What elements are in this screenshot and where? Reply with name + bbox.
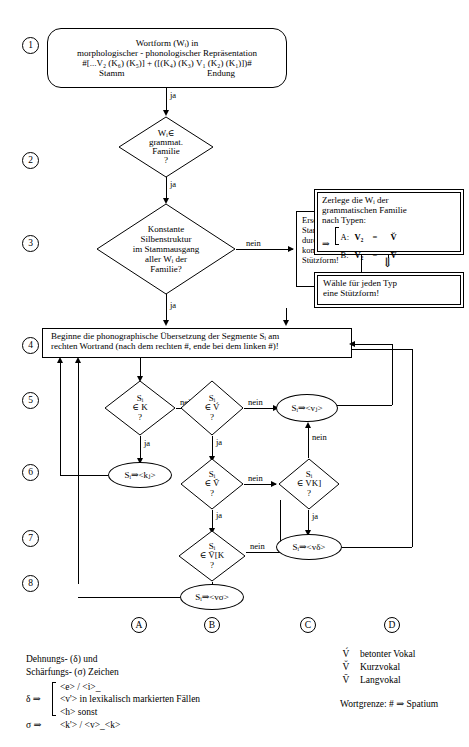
zerlege-type-b-label: B:: [341, 250, 355, 260]
column-letter-c: C: [300, 617, 316, 633]
decision-si-in-v-macron-k: Sᵢ ∈ V̄[K ?: [178, 530, 246, 582]
edge-e7-loop-top: [352, 349, 412, 350]
zerlege-line-3: nach Typen:: [322, 215, 456, 225]
legend-sigma-item: <k'> / <v>_<k>: [52, 719, 120, 732]
legend-desc-stressed: betonter Vokal: [360, 648, 415, 661]
choose-support-form-box: Wähle für jeden Typ eine Stützform!: [317, 275, 461, 305]
step-number-1: 1: [22, 37, 39, 54]
d3-line-3: im Stammausgang: [133, 244, 200, 254]
e7-text: Sᵢ⇒<vδ>: [293, 542, 326, 552]
column-letter-a: A: [131, 617, 147, 633]
edge-label-ja-6: ja: [215, 510, 223, 520]
legend-delta-item-2: <v'> in lexikalisch markierten Fällen: [60, 693, 200, 706]
edge-d3-to-ersetze: [236, 249, 293, 250]
legend-left-line-1: Dehnungs- (δ) und: [26, 653, 256, 666]
d3-line-1: Konstante: [148, 224, 185, 234]
waehle-line-2: eine Stützform!: [323, 288, 455, 298]
d5a-line-3: ?: [138, 413, 142, 422]
type-bracket: [335, 227, 339, 245]
step-number-5: 5: [22, 392, 39, 409]
step-number-6: 6: [22, 464, 39, 481]
arrowhead-d3-to-beginne: [163, 320, 169, 326]
edge-e8-loop-left: [78, 597, 180, 598]
decision-si-in-k: Sᵢ ∈ K ?: [104, 380, 176, 436]
legend-symbol-stressed: V́: [340, 648, 352, 661]
waehle-line-1: Wähle für jeden Typ: [323, 278, 455, 288]
edge-label-ja-3: ja: [169, 300, 177, 310]
step-number-7: 7: [22, 530, 39, 547]
edge-label-ja-2: ja: [169, 179, 177, 189]
column-letter-b: B: [204, 617, 220, 633]
edge-e7-loop-right: [342, 547, 412, 548]
zerlege-type-a-eq: =: [373, 232, 387, 242]
output-si-to-kj: Sᵢ⇒<kⱼ>: [108, 462, 172, 488]
d3-line-2: Silbenstruktur: [141, 234, 192, 244]
legend-wortgrenze: Wortgrenze: # ⇒ Spatium: [340, 698, 469, 711]
edge-label-nein-6: nein: [249, 541, 266, 551]
decision-grammatical-family: Wᵢ∈ grammat. Familie ?: [118, 116, 214, 178]
legend-left-line-2: Schärfungs- (σ) Zeichen: [26, 666, 256, 679]
start-line-2: morphologischer - phonologischer Repräse…: [77, 48, 257, 58]
decision-si-in-v-breve: Sᵢ ∈ V̆ ?: [180, 458, 244, 510]
arrowhead-loop-into-beginne: [349, 341, 355, 347]
legend-sigma-symbol: σ ⇒: [26, 719, 52, 732]
edge-e6-loop-left: [60, 475, 108, 476]
zerlege-type-a-lhs: V₂: [355, 232, 373, 242]
edge-d7b-nein-right: [246, 552, 280, 553]
start-box: Wortform (Wᵢ) in morphologischer - phono…: [47, 28, 287, 88]
flowchart-canvas: 1 2 3 4 5 6 7 8 Wortform (Wᵢ) in morphol…: [0, 0, 469, 747]
edge-e7-loop-riser: [412, 349, 413, 547]
edge-loop-into-beginne: [352, 344, 392, 345]
edge-label-nein-4: nein: [247, 473, 264, 483]
e8-text: Sᵢ⇒<vσ>: [195, 592, 229, 602]
legend-left: Dehnungs- (δ) und Schärfungs- (σ) Zeiche…: [26, 653, 256, 732]
edge-loop-riser-right: [392, 344, 393, 405]
legend-delta-symbol: δ ⇒: [26, 693, 52, 706]
edge-label-ja-7: ja: [311, 511, 319, 521]
edge-d6c-to-e5: [308, 427, 309, 458]
d3-line-5: Familie?: [150, 264, 182, 274]
legend-symbol-short: V̆: [340, 661, 352, 674]
legend-desc-long: Langvokal: [360, 674, 401, 687]
d6c-line-3: ?: [307, 489, 311, 498]
step-number-3: 3: [22, 235, 39, 252]
arrowhead-d6b-to-d6c: [271, 481, 277, 487]
output-si-to-vsigma: Sᵢ⇒<vσ>: [180, 584, 244, 610]
legend-delta-item-1: <e> / <i>_: [60, 681, 200, 694]
arrowhead-d3-to-ersetze: [288, 246, 294, 252]
d5b-line-3: ?: [210, 413, 214, 422]
column-letter-d: D: [384, 617, 400, 633]
decision-si-in-vk: Sᵢ ∈ VK] ?: [278, 458, 340, 510]
d7b-line-3: ?: [210, 561, 214, 570]
arrowhead-e8-loop-into-beginne: [75, 357, 81, 363]
edge-label-nein-5: nein: [311, 432, 328, 442]
beginne-line-1: Beginne die phonographische Übersetzung …: [51, 331, 343, 341]
start-line-1: Wortform (Wᵢ) in: [77, 38, 257, 48]
d6b-line-3: ?: [210, 489, 214, 498]
step-number-4: 4: [22, 337, 39, 354]
zerlege-type-a-label: A:: [341, 232, 355, 242]
edge-e6-loop-riser: [60, 362, 61, 475]
decision-constant-syllable-structure: Konstante Silbenstruktur im Stammausgang…: [96, 203, 236, 295]
arrowhead-right-into-beginne: [283, 320, 289, 326]
d3-line-4: aller Wᵢ der: [145, 254, 187, 264]
edge-label-nein-1: nein: [245, 238, 262, 248]
start-line-3: #[...V₂ (K₆) (K₅)] + ([(K₄) (K₃) V₁ (K₂)…: [77, 58, 257, 68]
edge-zerlege-to-waehle: [388, 255, 389, 258]
step-number-8: 8: [22, 575, 39, 592]
edge-label-ja-1: ja: [169, 90, 177, 100]
d2-line-4: ?: [164, 156, 168, 165]
edge-label-ja-5: ja: [215, 437, 223, 447]
legend-symbol-long: V̄: [340, 674, 352, 687]
edge-label-nein-3: nein: [247, 397, 264, 407]
legend-delta-item-3: <h> sonst: [60, 706, 200, 719]
legend-right: V́ betonter Vokal V̆ Kurzvokal V̄ Langvo…: [340, 648, 469, 711]
e6-text: Sᵢ⇒<kⱼ>: [124, 470, 155, 480]
beginne-line-2: rechten Wortrand (nach dem rechten #, en…: [51, 341, 343, 351]
edge-label-ja-4: ja: [143, 438, 151, 448]
begin-translation-box: Beginne die phonographische Übersetzung …: [42, 328, 352, 358]
output-si-to-vdelta: Sᵢ⇒<vδ>: [276, 534, 342, 560]
legend-desc-short: Kurzvokal: [360, 661, 400, 674]
decompose-box: Zerlege die Wᵢ der grammatischen Familie…: [317, 192, 461, 252]
zerlege-type-a-rhs: V̆: [387, 232, 401, 242]
